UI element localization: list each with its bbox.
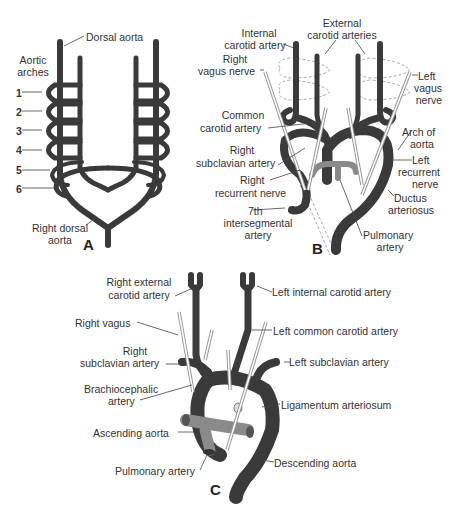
arch-number-2: 2 (16, 106, 22, 118)
label-common-carotid-line1: Common (208, 109, 278, 121)
label-7th-intersegmental-line3: artery (220, 229, 296, 241)
label-right-external-carotid-line2: carotid artery (100, 289, 178, 301)
label-right-vagus-nerve-line1: Right (200, 53, 270, 65)
label-ligamentum-arteriosum: Ligamentum arteriosum (281, 399, 391, 411)
label-right-dorsal-aorta-line1: Right dorsal (26, 222, 94, 234)
label-internal-carotid-line1: Internal (222, 27, 296, 39)
label-ascending-aorta: Ascending aorta (93, 427, 169, 439)
label-left-internal-carotid: Left internal carotid artery (272, 286, 391, 298)
label-common-carotid-line2: carotid artery (200, 122, 261, 134)
label-right-subclavian-c-line2: subclavian artery (80, 357, 159, 369)
label-aortic-arches-line2: arches (14, 66, 52, 78)
label-external-carotid-line1: External (296, 17, 388, 29)
label-right-external-carotid-line1: Right external (100, 276, 178, 288)
panel-c-adult-arrangement (137, 275, 290, 497)
label-arch-of-aorta-line1: Arch of (402, 126, 435, 138)
label-pulmonary-artery-b-line1: Pulmonary (363, 229, 413, 241)
label-right-subclavian-line1: Right (212, 144, 272, 156)
label-right-recurrent-line2: recurrent nerve (215, 187, 286, 199)
aortic-arch-diagram: .art { fill:none; stroke:#3a3a3a; stroke… (0, 0, 463, 515)
label-left-vagus-nerve-line1: Left (418, 70, 436, 82)
label-right-subclavian-line2: subclavian artery (196, 157, 275, 169)
label-7th-intersegmental-line2: intersegmental (220, 217, 296, 229)
label-left-vagus-nerve-line3: nerve (408, 94, 442, 106)
label-pulmonary-artery-b-line2: artery (363, 241, 417, 253)
arch-number-1: 1 (16, 87, 22, 99)
label-internal-carotid-line2: carotid artery (214, 39, 296, 51)
label-right-subclavian-c-line1: Right (110, 345, 160, 357)
panel-letter-c: C (210, 481, 221, 498)
label-left-common-carotid: Left common carotid artery (273, 325, 398, 337)
arch-number-4: 4 (16, 144, 22, 156)
panel-letter-a: A (83, 236, 94, 253)
label-descending-aorta: Descending aorta (274, 457, 356, 469)
label-pulmonary-artery-c: Pulmonary artery (115, 465, 195, 477)
label-right-vagus: Right vagus (75, 317, 130, 329)
label-ductus-arteriosus-line2: arteriosus (388, 204, 434, 216)
label-left-subclavian: Left subclavian artery (289, 356, 389, 368)
label-external-carotid-line2: carotid arteries (296, 29, 388, 41)
arch-number-6: 6 (16, 183, 22, 195)
label-left-recurrent-line1: Left (412, 154, 430, 166)
label-dorsal-aorta: Dorsal aorta (86, 31, 143, 43)
label-7th-intersegmental-line1: 7th (248, 205, 263, 217)
label-right-recurrent-line1: Right (240, 174, 265, 186)
label-arch-of-aorta-line2: aorta (402, 138, 442, 150)
label-right-vagus-nerve-line2: vagus nerve (198, 65, 255, 77)
label-aortic-arches-line1: Aortic (14, 54, 52, 66)
label-left-recurrent-line2: recurrent (398, 166, 440, 178)
label-ductus-arteriosus-line1: Ductus (394, 192, 427, 204)
label-brachiocephalic-line1: Brachiocephalic (84, 383, 158, 395)
label-brachiocephalic-line2: artery (108, 395, 135, 407)
arch-number-5: 5 (16, 164, 22, 176)
panel-letter-b: B (312, 240, 323, 257)
label-left-recurrent-line3: nerve (412, 178, 438, 190)
label-left-vagus-nerve-line2: vagus (408, 82, 442, 94)
arch-number-3: 3 (16, 125, 22, 137)
